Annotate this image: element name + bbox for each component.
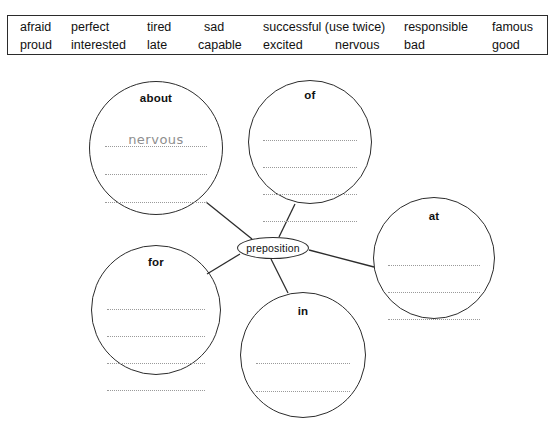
dotted-rule <box>256 391 350 392</box>
handwritten-answer: nervous <box>105 132 207 147</box>
answer-line-slot[interactable] <box>374 292 494 319</box>
word-bank-item: nervous <box>335 36 379 55</box>
answer-line-slot[interactable]: nervous <box>90 118 222 146</box>
answer-line-slot[interactable] <box>92 309 220 336</box>
word-bank-item: proud <box>20 36 52 55</box>
word-bank-item: tired <box>147 18 171 37</box>
node-circle-in[interactable]: in <box>240 292 366 418</box>
connector-at <box>309 250 374 267</box>
node-circle-about[interactable]: aboutnervous <box>89 81 223 215</box>
answer-line-slot[interactable] <box>249 167 371 194</box>
center-node-label: preposition <box>238 242 308 254</box>
node-label-about: about <box>90 92 222 104</box>
word-bank-item: interested <box>71 36 126 55</box>
node-circle-at[interactable]: at <box>373 197 495 319</box>
word-bank-item: bad <box>404 36 425 55</box>
answer-line-slot[interactable] <box>249 140 371 167</box>
answer-line-slot[interactable] <box>90 174 222 202</box>
answer-line-slot[interactable] <box>241 363 365 391</box>
answer-lines-of <box>249 113 371 221</box>
word-bank-item: late <box>147 36 167 55</box>
answer-lines-for <box>92 282 220 390</box>
worksheet-page: afraidperfecttiredsadsuccessful (use twi… <box>0 0 556 445</box>
word-bank-item: sad <box>204 18 224 37</box>
dotted-rule <box>107 390 205 391</box>
answer-line-slot[interactable] <box>90 146 222 174</box>
word-bank-row: proudinterestedlatecapableexcitednervous… <box>8 36 547 55</box>
word-bank-item: capable <box>198 36 242 55</box>
connector-about <box>206 202 252 239</box>
node-label-of: of <box>249 89 371 101</box>
word-bank-item: excited <box>263 36 303 55</box>
dotted-rule <box>388 319 480 320</box>
answer-lines-at <box>374 238 494 319</box>
node-label-in: in <box>241 305 365 317</box>
node-label-for: for <box>92 256 220 268</box>
connector-in <box>271 259 288 293</box>
center-node-preposition[interactable]: preposition <box>237 237 309 259</box>
word-bank-item: famous <box>492 18 533 37</box>
word-bank-item: good <box>492 36 520 55</box>
answer-line-slot[interactable] <box>92 363 220 390</box>
word-bank-row: afraidperfecttiredsadsuccessful (use twi… <box>8 18 547 37</box>
word-bank-box: afraidperfecttiredsadsuccessful (use twi… <box>7 15 548 55</box>
node-circle-of[interactable]: of <box>248 80 372 204</box>
answer-line-slot[interactable] <box>374 238 494 265</box>
answer-lines-about: nervous <box>90 118 222 202</box>
answer-line-slot[interactable] <box>374 265 494 292</box>
word-bank-item: successful (use twice) <box>263 18 385 37</box>
word-bank-item: afraid <box>20 18 51 37</box>
answer-line-slot[interactable] <box>92 336 220 363</box>
dotted-rule <box>263 221 357 222</box>
answer-line-slot[interactable] <box>249 194 371 221</box>
node-circle-for[interactable]: for <box>91 245 221 375</box>
word-bank-item: perfect <box>71 18 109 37</box>
mind-map: aboutnervousofatforin preposition <box>0 58 556 445</box>
node-label-at: at <box>374 210 494 222</box>
answer-lines-in <box>241 335 365 391</box>
word-bank-item: responsible <box>404 18 468 37</box>
answer-line-slot[interactable] <box>241 335 365 363</box>
answer-line-slot[interactable] <box>249 113 371 140</box>
dotted-rule <box>105 202 207 203</box>
answer-line-slot[interactable] <box>92 282 220 309</box>
